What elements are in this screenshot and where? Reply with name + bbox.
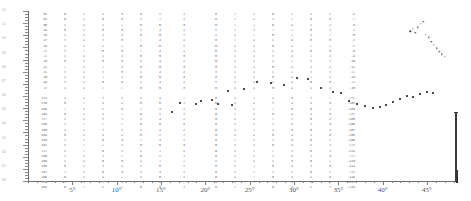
data-table-right-column-group: 0000000000000000001111111111111111112222… [201,96,358,191]
data-table-column: 221212121212121 [69,12,88,91]
scatter-point [356,103,358,105]
y-axis-tick [23,35,28,36]
data-table-column: 010101010101010101 [88,96,107,191]
data-table-cell: 1 [102,86,104,91]
y-axis-tick [23,84,28,85]
x-axis-minor-tick [365,181,366,183]
data-table-column: 010101010101010 [258,12,277,91]
y-axis-tick [25,17,28,18]
y-axis-tick-label: 0.3 [2,137,5,140]
y-axis-tick [25,154,28,155]
y-axis-tick [25,172,28,173]
y-axis-tick-label: 0.1 [2,165,5,168]
y-axis-tick [23,11,28,12]
data-table-cell: 1 [234,86,236,91]
data-table-right-column-group: 0000000000000001111111111111112222222222… [201,12,358,91]
data-table-column: -101-102-103-104-105-106-107-108-109-110… [334,96,358,191]
scatter-point [171,111,173,113]
data-table-cell: 5 [159,86,161,91]
data-table-cell: 1 [310,185,312,190]
y-axis-tick [25,117,28,118]
scatter-point [195,103,197,105]
y-axis-tick-label: 0.2 [2,151,5,154]
scatter-point [211,99,213,101]
y-axis-tick [25,26,28,27]
scatter-point [415,32,416,33]
y-axis-tick [25,63,28,64]
scatter-point [320,87,322,89]
x-axis-minor-tick [374,181,375,183]
data-table-column: 323232323232323232 [107,96,126,191]
scatter-point [428,37,429,38]
data-table-cell: 4 [291,185,293,190]
data-table-cell: 0 [272,86,274,91]
scatter-point [307,78,309,80]
x-axis-minor-tick [436,181,437,183]
scatter-point [385,104,387,106]
data-table-cell: 0 [140,185,142,190]
y-axis-tick [25,111,28,112]
scientific-figure: 1.21.11.00.90.80.70.60.50.40.30.20.10.0 … [0,0,471,201]
scatter-point [432,92,434,94]
y-axis-tick-label: 1.1 [2,23,5,26]
data-table-column: 101010101010101010 [258,96,277,191]
y-axis-tick [25,32,28,33]
y-axis-tick [23,120,28,121]
y-axis-tick [23,108,28,109]
data-table-cell: 3 [183,86,185,91]
data-table-column: 222222222222222 [239,12,258,91]
scatter-point [444,56,445,57]
y-axis-tick-label: 0.0 [2,179,5,182]
scatter-point [431,41,432,42]
y-axis-tick [25,66,28,67]
y-axis-tick [25,148,28,149]
x-axis-minor-tick [28,181,29,183]
scatter-point [379,106,381,108]
data-table-cell: 0 [215,185,217,190]
data-table-column-gap [188,96,201,191]
y-axis-tick [23,47,28,48]
data-table-column: 454545454545454545 [145,96,164,191]
data-table-column: 101010101010101010 [50,96,69,191]
y-axis-tick [25,135,28,136]
scatter-point [332,91,334,93]
y-axis-tick [25,44,28,45]
x-axis-minor-tick [392,181,393,183]
y-axis-tick [25,139,28,140]
y-axis-tick [23,23,28,24]
y-axis-tick [25,69,28,70]
scatter-point [412,28,413,29]
data-table-column: 010101010101010101 [296,96,315,191]
data-table-column: -1-2-3-4-5-6-7-8-9-10-11-12-13-14-15 [334,12,358,91]
y-axis-tick [25,99,28,100]
data-table-cell: 0 [64,185,66,190]
scatter-point [436,48,437,49]
y-axis-tick [25,87,28,88]
y-axis-tick [23,145,28,146]
data-table-cell: 2 [329,86,331,91]
data-table-cell: 2 [121,86,123,91]
data-table-cell: 154 [41,185,47,190]
scatter-point [227,90,229,92]
data-table-cell: 1 [310,86,312,91]
scatter-point [439,51,440,52]
scatter-point [283,84,285,86]
y-axis-tick [25,142,28,143]
x-axis-minor-tick [418,181,419,183]
data-table-cell: 4 [291,86,293,91]
data-table-column: 000000000000000000 [201,96,220,191]
y-axis-tick-label: 0.9 [2,52,5,55]
data-table-left-column-group: 1711701691681671661651641631621611601591… [31,96,188,191]
y-axis-tick [25,151,28,152]
scatter-point [231,104,233,106]
data-table-column: 343434343434343434 [277,96,296,191]
scatter-point [364,105,366,107]
x-axis-major-tick [427,181,428,185]
y-axis-tick [25,160,28,161]
scatter-point [412,96,414,98]
scatter-point [406,95,408,97]
data-table-cell: 2 [83,185,85,190]
data-table-column: 232323232323232 [315,12,334,91]
y-axis-tick [25,54,28,55]
y-axis-tick [25,105,28,106]
